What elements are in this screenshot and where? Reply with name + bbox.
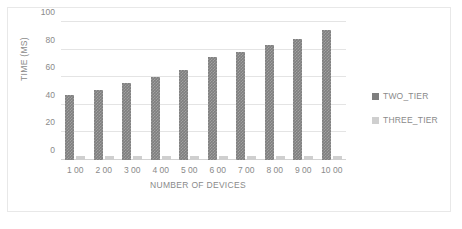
bar-two-tier[interactable]	[293, 39, 302, 160]
bar-two-tier[interactable]	[236, 52, 245, 160]
bar-two-tier[interactable]	[122, 83, 131, 160]
bar-three-tier[interactable]	[219, 156, 228, 160]
category-group: 5 00	[175, 22, 204, 160]
y-axis-tick-label: 80	[46, 35, 55, 45]
legend-label: TWO_TIER	[383, 91, 429, 101]
bar-three-tier[interactable]	[133, 156, 142, 160]
category-group: 8 00	[261, 22, 290, 160]
bar-three-tier[interactable]	[247, 156, 256, 160]
legend-item-three-tier[interactable]: THREE_TIER	[372, 115, 452, 125]
x-axis-tick-label: 10 00	[321, 165, 342, 175]
x-axis-tick-label: 6 00	[209, 165, 226, 175]
x-axis-tick-label: 7 00	[238, 165, 255, 175]
bar-three-tier[interactable]	[162, 156, 171, 160]
bar-two-tier[interactable]	[151, 77, 160, 160]
bars-layer: 1 002 003 004 005 006 007 008 009 0010 0…	[61, 22, 346, 160]
bar-two-tier[interactable]	[65, 95, 74, 160]
bar-three-tier[interactable]	[333, 156, 342, 160]
x-axis-tick-label: 3 00	[124, 165, 141, 175]
x-axis-tick-label: 8 00	[266, 165, 283, 175]
x-axis-title: NUMBER OF DEVICES	[48, 180, 348, 190]
x-axis-tick-label: 5 00	[181, 165, 198, 175]
bar-three-tier[interactable]	[190, 156, 199, 160]
y-axis-title: TIME (MS)	[19, 5, 29, 113]
category-group: 1 00	[61, 22, 90, 160]
category-group: 7 00	[232, 22, 261, 160]
legend-swatch-icon	[372, 93, 379, 100]
x-axis-tick-label: 1 00	[67, 165, 84, 175]
bar-three-tier[interactable]	[105, 156, 114, 160]
category-group: 6 00	[204, 22, 233, 160]
y-axis-tick-label: 60	[46, 62, 55, 72]
legend-item-two-tier[interactable]: TWO_TIER	[372, 91, 452, 101]
chart-card: TIME (MS) 020406080100 1 002 003 004 005…	[7, 7, 451, 212]
y-axis-tick-label: 40	[46, 90, 55, 100]
legend-label: THREE_TIER	[383, 115, 438, 125]
x-axis-tick-label: 4 00	[152, 165, 169, 175]
bar-three-tier[interactable]	[76, 156, 85, 160]
chart-legend: TWO_TIERTHREE_TIER	[372, 91, 452, 139]
x-axis-tick-label: 9 00	[295, 165, 312, 175]
bar-two-tier[interactable]	[208, 57, 217, 161]
bar-two-tier[interactable]	[94, 90, 103, 160]
bar-two-tier[interactable]	[179, 70, 188, 160]
plot-area: 020406080100 1 002 003 004 005 006 007 0…	[61, 22, 346, 160]
bar-two-tier[interactable]	[322, 30, 331, 160]
bar-three-tier[interactable]	[276, 156, 285, 160]
bar-two-tier[interactable]	[265, 45, 274, 160]
y-axis-tick-label: 20	[46, 117, 55, 127]
category-group: 3 00	[118, 22, 147, 160]
y-axis-tick-label: 0	[50, 145, 55, 155]
category-group: 10 00	[318, 22, 347, 160]
category-group: 9 00	[289, 22, 318, 160]
legend-swatch-icon	[372, 117, 379, 124]
bar-three-tier[interactable]	[304, 156, 313, 160]
category-group: 4 00	[147, 22, 176, 160]
category-group: 2 00	[90, 22, 119, 160]
y-axis-tick-label: 100	[41, 7, 55, 17]
x-axis-tick-label: 2 00	[95, 165, 112, 175]
